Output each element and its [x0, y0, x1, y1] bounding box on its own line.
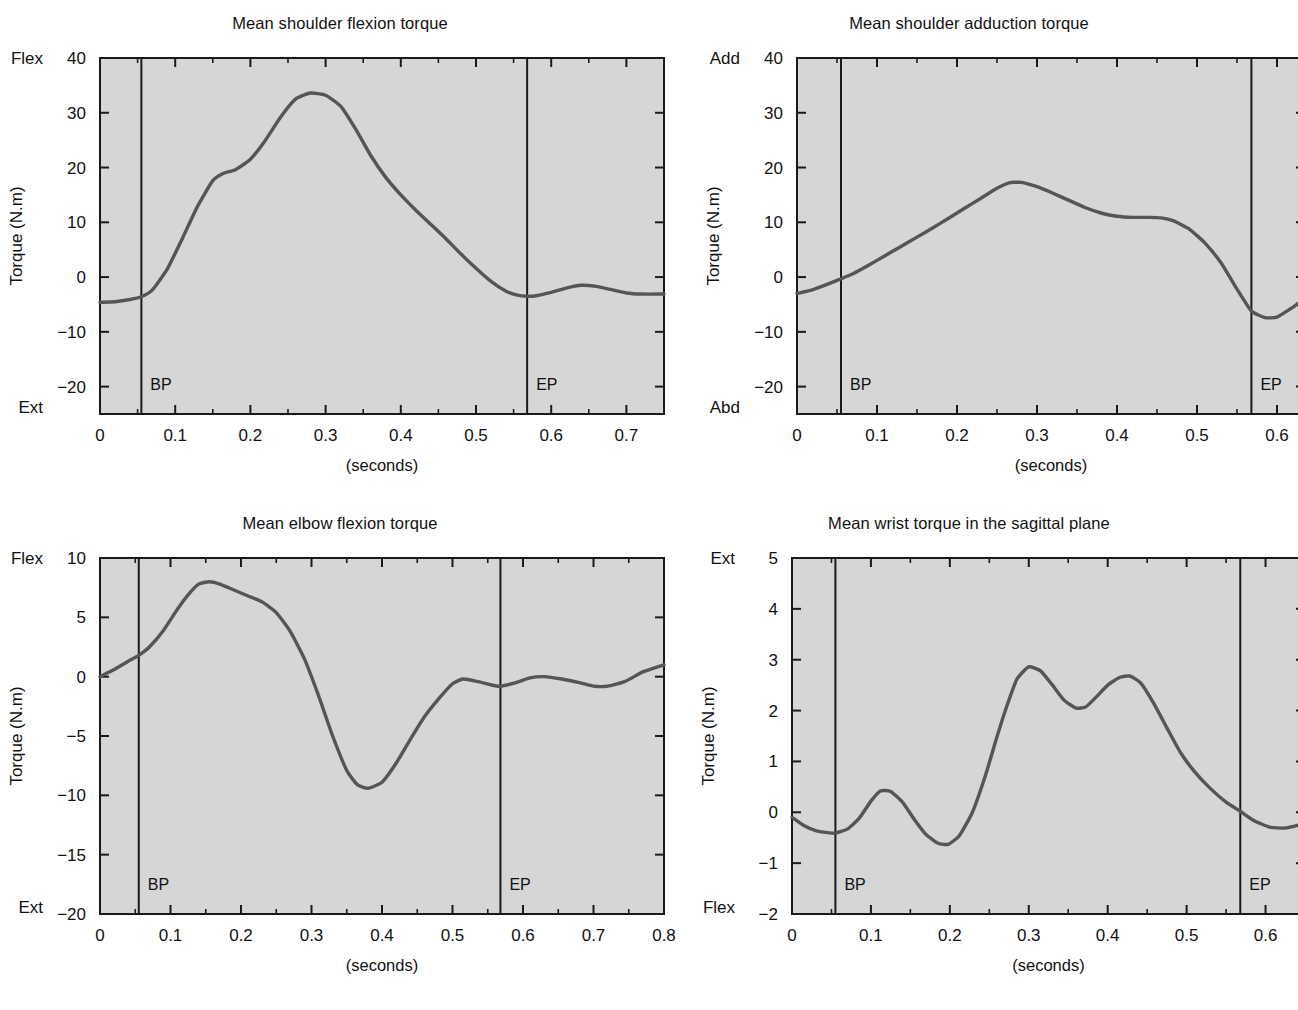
- event-label-ep: EP: [1249, 876, 1270, 893]
- x-tick-label: 0: [787, 926, 796, 945]
- y-tick-label: −10: [57, 323, 86, 342]
- y-axis-positive-direction-label: Flex: [11, 49, 44, 68]
- chart-panel-shoulder-flexion: Mean shoulder flexion torque00.10.20.30.…: [0, 0, 680, 500]
- y-tick-label: 40: [67, 49, 86, 68]
- y-tick-label: −20: [57, 905, 86, 924]
- chart-svg-wrist-sagittal: 00.10.20.30.40.50.6−2−1012345ExtFlexTorq…: [640, 500, 1298, 1010]
- chart-panel-shoulder-adduction: Mean shoulder adduction torque00.10.20.3…: [640, 0, 1298, 500]
- event-label-bp: BP: [150, 376, 171, 393]
- y-axis-negative-direction-label: Abd: [710, 398, 740, 417]
- y-tick-label: 0: [774, 268, 783, 287]
- y-tick-label: 4: [769, 600, 778, 619]
- x-tick-label: 0.2: [239, 426, 263, 445]
- event-label-ep: EP: [1260, 376, 1281, 393]
- y-tick-label: −15: [57, 846, 86, 865]
- y-tick-label: 0: [769, 803, 778, 822]
- y-tick-label: 10: [67, 549, 86, 568]
- plot-area-background: [792, 558, 1298, 914]
- y-axis-title: Torque (N.m): [7, 186, 26, 285]
- y-axis-title: Torque (N.m): [7, 686, 26, 785]
- x-tick-label: 0: [95, 926, 104, 945]
- y-tick-label: −10: [57, 786, 86, 805]
- y-axis-positive-direction-label: Ext: [710, 549, 735, 568]
- x-axis-caption: (seconds): [1015, 456, 1087, 474]
- x-tick-label: 0.2: [938, 926, 962, 945]
- event-label-bp: BP: [148, 876, 169, 893]
- y-tick-label: −2: [759, 905, 778, 924]
- x-tick-label: 0.7: [615, 426, 639, 445]
- x-tick-label: 0.5: [441, 926, 465, 945]
- y-tick-label: 3: [769, 651, 778, 670]
- y-tick-label: 0: [77, 268, 86, 287]
- x-tick-label: 0.6: [1265, 426, 1289, 445]
- y-axis-title: Torque (N.m): [704, 186, 723, 285]
- x-tick-label: 0.4: [1105, 426, 1129, 445]
- chart-panel-wrist-sagittal: Mean wrist torque in the sagittal plane0…: [640, 500, 1298, 1010]
- x-axis-caption: (seconds): [1012, 956, 1084, 974]
- chart-svg-elbow-flexion: 00.10.20.30.40.50.60.70.8−20−15−10−50510…: [0, 500, 680, 1010]
- x-axis-caption: (seconds): [346, 456, 418, 474]
- y-tick-label: 0: [77, 668, 86, 687]
- y-tick-label: 40: [764, 49, 783, 68]
- event-label-bp: BP: [844, 876, 865, 893]
- y-tick-label: −20: [754, 378, 783, 397]
- y-axis-title: Torque (N.m): [699, 686, 718, 785]
- chart-panel-elbow-flexion: Mean elbow flexion torque00.10.20.30.40.…: [0, 500, 680, 1010]
- chart-title-elbow-flexion: Mean elbow flexion torque: [0, 514, 680, 533]
- x-tick-label: 0.4: [370, 926, 394, 945]
- plot-area-background: [100, 558, 664, 914]
- x-tick-label: 0.5: [1185, 426, 1209, 445]
- x-tick-label: 0.3: [1025, 426, 1049, 445]
- x-tick-label: 0.2: [229, 926, 253, 945]
- x-tick-label: 0.6: [539, 426, 563, 445]
- chart-svg-shoulder-flexion: 00.10.20.30.40.50.60.7−20−10010203040Fle…: [0, 0, 680, 500]
- y-axis-positive-direction-label: Add: [710, 49, 740, 68]
- y-tick-label: 2: [769, 702, 778, 721]
- y-axis-negative-direction-label: Ext: [18, 898, 43, 917]
- y-tick-label: 10: [67, 213, 86, 232]
- x-tick-label: 0.5: [1175, 926, 1199, 945]
- x-tick-label: 0.3: [314, 426, 338, 445]
- x-tick-label: 0.1: [859, 926, 883, 945]
- y-tick-label: −1: [759, 854, 778, 873]
- x-tick-label: 0.3: [1017, 926, 1041, 945]
- event-label-ep: EP: [536, 376, 557, 393]
- x-tick-label: 0.4: [1096, 926, 1120, 945]
- x-tick-label: 0.1: [163, 426, 187, 445]
- y-tick-label: 5: [77, 608, 86, 627]
- x-tick-label: 0.4: [389, 426, 413, 445]
- y-tick-label: 5: [769, 549, 778, 568]
- x-tick-label: 0.7: [582, 926, 606, 945]
- event-label-bp: BP: [850, 376, 871, 393]
- y-tick-label: 30: [764, 104, 783, 123]
- y-tick-label: 10: [764, 213, 783, 232]
- x-tick-label: 0.1: [159, 926, 183, 945]
- x-tick-label: 0: [95, 426, 104, 445]
- y-tick-label: 20: [67, 159, 86, 178]
- y-tick-label: −5: [67, 727, 86, 746]
- y-tick-label: 1: [769, 752, 778, 771]
- chart-svg-shoulder-adduction: 00.10.20.30.40.50.6−20−10010203040AddAbd…: [640, 0, 1298, 500]
- x-tick-label: 0.6: [1254, 926, 1278, 945]
- chart-title-shoulder-flexion: Mean shoulder flexion torque: [0, 14, 680, 33]
- y-tick-label: 30: [67, 104, 86, 123]
- chart-title-shoulder-adduction: Mean shoulder adduction torque: [640, 14, 1298, 33]
- x-tick-label: 0.2: [945, 426, 969, 445]
- event-label-ep: EP: [509, 876, 530, 893]
- y-axis-negative-direction-label: Flex: [703, 898, 736, 917]
- chart-title-wrist-sagittal: Mean wrist torque in the sagittal plane: [640, 514, 1298, 533]
- x-tick-label: 0.3: [300, 926, 324, 945]
- y-tick-label: 20: [764, 159, 783, 178]
- y-axis-negative-direction-label: Ext: [18, 398, 43, 417]
- x-tick-label: 0.1: [865, 426, 889, 445]
- x-axis-caption: (seconds): [346, 956, 418, 974]
- y-axis-positive-direction-label: Flex: [11, 549, 44, 568]
- figure-torque-panels: Mean shoulder flexion torque00.10.20.30.…: [0, 0, 1298, 1010]
- x-tick-label: 0: [792, 426, 801, 445]
- x-tick-label: 0.5: [464, 426, 488, 445]
- plot-area-background: [797, 58, 1298, 414]
- x-tick-label: 0.6: [511, 926, 535, 945]
- y-tick-label: −10: [754, 323, 783, 342]
- y-tick-label: −20: [57, 378, 86, 397]
